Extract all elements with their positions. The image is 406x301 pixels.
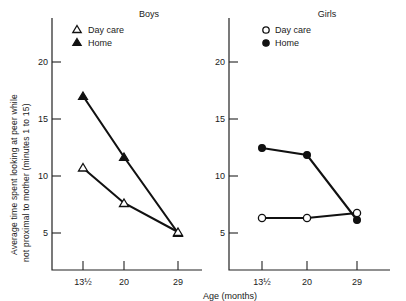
girls-xtick-label-20: 20 xyxy=(302,277,312,287)
boys-panel-title: Boys xyxy=(139,9,160,19)
girls-daycare-point-13h xyxy=(258,214,265,221)
boys-ytick-label-10: 10 xyxy=(38,171,48,181)
girls-ytick-label-10: 10 xyxy=(215,171,225,181)
girls-x-ticks: 13½ 20 29 xyxy=(253,261,362,287)
boys-y-ticks: 20 15 10 5 xyxy=(38,57,61,238)
boys-xtick-label-13h: 13½ xyxy=(74,277,92,287)
x-axis-label: Age (months) xyxy=(203,291,257,301)
girls-ytick-label-5: 5 xyxy=(220,228,225,238)
boys-legend: Day care Home xyxy=(73,25,124,48)
girls-series-daycare xyxy=(258,209,360,221)
filled-circle-icon xyxy=(263,40,269,46)
girls-home-point-29 xyxy=(354,217,361,224)
girls-ytick-label-15: 15 xyxy=(215,114,225,124)
y-axis-label-line1: Average time spent looking at peer while xyxy=(9,94,19,255)
boys-ytick-label-15: 15 xyxy=(38,114,48,124)
girls-daycare-point-29 xyxy=(353,209,360,216)
boys-series-daycare xyxy=(79,164,183,236)
boys-home-point-13h xyxy=(79,92,88,100)
girls-legend: Day care Home xyxy=(263,25,311,48)
boys-legend-home-label: Home xyxy=(88,38,112,48)
boys-xtick-label-29: 29 xyxy=(173,277,183,287)
boys-ytick-label-5: 5 xyxy=(43,228,48,238)
boys-x-ticks: 13½ 20 29 xyxy=(74,261,183,287)
girls-axis-lines xyxy=(229,18,390,270)
boys-home-line xyxy=(83,96,178,233)
girls-daycare-point-20 xyxy=(303,214,310,221)
girls-legend-daycare-label: Day care xyxy=(275,25,311,35)
panel-girls: 20 15 10 5 13½ 20 29 Girls Day care Home xyxy=(215,9,390,287)
girls-home-point-13h xyxy=(259,145,266,152)
girls-xtick-label-29: 29 xyxy=(352,277,362,287)
open-triangle-icon xyxy=(73,26,81,33)
open-circle-icon xyxy=(263,27,269,33)
panel-boys: 20 15 10 5 13½ 20 29 Boys Day care Home xyxy=(38,9,202,287)
girls-legend-home-label: Home xyxy=(275,38,299,48)
boys-series-home xyxy=(79,92,183,237)
girls-y-ticks: 20 15 10 5 xyxy=(215,57,238,238)
chart-svg: Average time spent looking at peer while… xyxy=(0,0,406,301)
girls-xtick-label-13h: 13½ xyxy=(253,277,271,287)
boys-ytick-label-20: 20 xyxy=(38,57,48,67)
boys-legend-daycare-label: Day care xyxy=(88,25,124,35)
chart-figure: Average time spent looking at peer while… xyxy=(0,0,406,301)
girls-home-line xyxy=(262,148,357,220)
boys-xtick-label-20: 20 xyxy=(119,277,129,287)
y-axis-label: Average time spent looking at peer while… xyxy=(9,94,31,262)
girls-series-home xyxy=(259,145,361,224)
girls-panel-title: Girls xyxy=(318,9,337,19)
y-axis-label-line2: not proximal to mother (minutes 1 to 15) xyxy=(21,103,31,262)
girls-ytick-label-20: 20 xyxy=(215,57,225,67)
filled-triangle-icon xyxy=(73,39,81,46)
boys-daycare-line xyxy=(83,168,178,232)
girls-home-point-20 xyxy=(304,152,311,159)
boys-daycare-point-13h xyxy=(79,164,88,172)
